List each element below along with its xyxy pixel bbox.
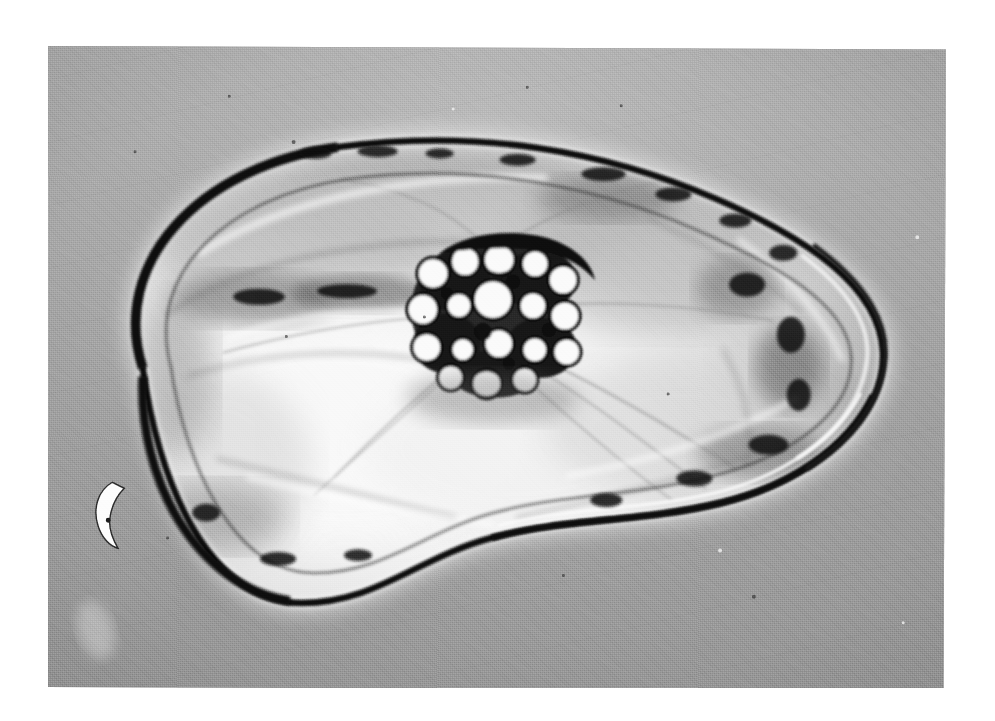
dust-speck xyxy=(667,392,670,395)
page-margin-bottom xyxy=(0,688,995,721)
dust-speck xyxy=(134,150,137,153)
dust-speck xyxy=(423,315,426,318)
dust-speck-light xyxy=(902,621,905,624)
dust-speck xyxy=(562,574,565,577)
embryo-specimen xyxy=(46,46,946,690)
cluster-shadow xyxy=(407,371,579,424)
page-margin-right xyxy=(947,0,995,721)
dust-speck xyxy=(285,335,288,338)
page-margin-left xyxy=(0,0,48,721)
dust-speck-light xyxy=(452,108,455,111)
dust-speck xyxy=(166,536,169,539)
light-smudge xyxy=(56,586,146,676)
comma-artifact xyxy=(82,476,142,556)
dust-speck xyxy=(361,285,364,288)
page-margin-top xyxy=(0,0,995,46)
dust-speck-light xyxy=(718,549,722,553)
dust-speck xyxy=(752,595,756,599)
page-canvas: Bean-shaped transparent embryo seen in p… xyxy=(0,0,995,721)
dust-speck xyxy=(526,86,529,89)
micrograph-plate xyxy=(46,46,946,690)
vesicle-cluster xyxy=(46,46,946,690)
dust-speck-light xyxy=(915,235,919,239)
dust-speck xyxy=(620,104,623,107)
dust-speck xyxy=(228,95,231,98)
dust-speck xyxy=(292,140,296,144)
